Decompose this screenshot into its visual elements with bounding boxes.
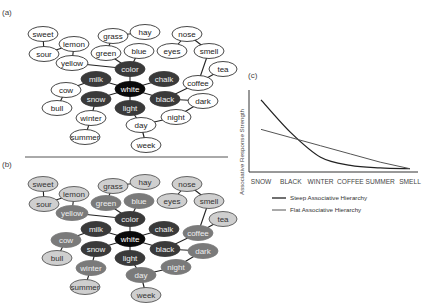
- node-label: nose: [178, 30, 196, 39]
- node-label: chalk: [155, 75, 175, 84]
- node-label: cow: [59, 236, 73, 245]
- node-cow: cow: [51, 233, 81, 248]
- node-winter: winter: [76, 111, 106, 126]
- line-chart: Associative Response Strength SNOWBLACKW…: [238, 90, 421, 213]
- node-milk: milk: [81, 222, 111, 237]
- node-hay: hay: [130, 25, 160, 40]
- node-label: sour: [36, 200, 52, 209]
- node-label: eyes: [164, 197, 181, 206]
- x-tick-smell: SMELL: [399, 178, 421, 185]
- node-label: yellow: [61, 59, 83, 68]
- node-yellow: yellow: [56, 56, 88, 71]
- node-label: sour: [36, 50, 52, 59]
- node-light: light: [115, 251, 145, 266]
- node-blue: blue: [124, 44, 154, 59]
- node-day: day: [126, 118, 156, 133]
- x-tick-coffee: COFFEE: [337, 178, 364, 185]
- node-label: bull: [51, 104, 64, 113]
- node-black: black: [150, 242, 180, 257]
- node-color: color: [115, 62, 145, 77]
- node-smell: smell: [194, 194, 224, 209]
- node-label: dark: [195, 247, 212, 256]
- x-axis-ticks: SNOWBLACKWINTERCOFFEESUMMERSMELL: [251, 178, 421, 185]
- node-label: summer: [71, 133, 100, 142]
- node-label: hay: [139, 28, 152, 37]
- network-b: sweetsourlemonyellowgrasshaygreenbluenos…: [28, 175, 237, 303]
- node-label: milk: [89, 75, 104, 84]
- node-week: week: [131, 288, 161, 303]
- node-label: tea: [217, 65, 229, 74]
- node-label: week: [136, 141, 157, 150]
- steep-hierarchy-line: [261, 100, 410, 169]
- node-label: winter: [79, 264, 102, 273]
- node-label: dark: [195, 97, 212, 106]
- node-label: green: [96, 49, 116, 58]
- node-sweet: sweet: [28, 177, 58, 192]
- node-label: grass: [103, 32, 123, 41]
- panel-a-label: (a): [2, 8, 12, 17]
- node-label: lemon: [63, 40, 85, 49]
- node-eyes: eyes: [157, 194, 187, 209]
- node-label: coffee: [187, 79, 209, 88]
- legend-flat-label: Flat Associative Hierarchy: [290, 206, 362, 213]
- node-label: blue: [131, 197, 147, 206]
- node-label: smell: [200, 197, 219, 206]
- node-snow: snow: [81, 92, 111, 107]
- node-label: black: [156, 245, 176, 254]
- node-summer: summer: [70, 130, 100, 145]
- node-label: nose: [178, 180, 196, 189]
- node-label: lemon: [63, 190, 85, 199]
- node-label: summer: [71, 283, 100, 292]
- node-sour: sour: [29, 197, 59, 212]
- node-label: grass: [103, 182, 123, 191]
- legend-steep-label: Steep Associative Hierarchy: [290, 194, 368, 201]
- node-yellow: yellow: [56, 206, 88, 221]
- x-tick-summer: SUMMER: [366, 178, 396, 185]
- node-dark: dark: [188, 94, 218, 109]
- node-nose: nose: [172, 177, 202, 192]
- node-label: snow: [87, 95, 106, 104]
- node-label: eyes: [164, 47, 181, 56]
- node-green: green: [91, 46, 121, 61]
- x-tick-snow: SNOW: [251, 178, 272, 185]
- node-winter: winter: [76, 261, 106, 276]
- x-tick-winter: WINTER: [308, 178, 334, 185]
- node-light: light: [115, 101, 145, 116]
- network-b-nodes: sweetsourlemonyellowgrasshaygreenbluenos…: [28, 175, 237, 303]
- node-label: blue: [131, 47, 147, 56]
- legend: Steep Associative Hierarchy Flat Associa…: [272, 194, 368, 213]
- node-label: day: [135, 121, 148, 130]
- node-white: white: [115, 82, 145, 97]
- node-nose: nose: [172, 27, 202, 42]
- node-label: coffee: [187, 229, 209, 238]
- network-a-nodes: sweetsourlemonyellowgrasshaygreenbluenos…: [28, 25, 237, 153]
- node-lemon: lemon: [59, 187, 89, 202]
- node-black: black: [150, 92, 180, 107]
- node-label: white: [120, 235, 140, 244]
- node-coffee: coffee: [183, 226, 213, 241]
- node-label: chalk: [155, 225, 175, 234]
- node-label: snow: [87, 245, 106, 254]
- node-label: night: [167, 113, 185, 122]
- node-tea: tea: [209, 212, 237, 227]
- node-label: tea: [217, 215, 229, 224]
- node-smell: smell: [194, 44, 224, 59]
- node-label: light: [123, 104, 138, 113]
- node-chalk: chalk: [149, 72, 179, 87]
- panel-b-label: (b): [2, 160, 12, 169]
- figure-canvas: (a) (b) (c) sweetsourlemonyellowgrasshay…: [0, 0, 437, 303]
- node-label: bull: [51, 254, 64, 263]
- node-label: sweet: [33, 180, 55, 189]
- node-night: night: [161, 110, 191, 125]
- node-grass: grass: [98, 179, 128, 194]
- node-label: week: [136, 291, 157, 300]
- node-grass: grass: [98, 29, 128, 44]
- node-chalk: chalk: [149, 222, 179, 237]
- node-milk: milk: [81, 72, 111, 87]
- node-label: cow: [59, 86, 73, 95]
- node-snow: snow: [81, 242, 111, 257]
- node-label: green: [96, 199, 116, 208]
- node-label: winter: [79, 114, 102, 123]
- node-dark: dark: [188, 244, 218, 259]
- node-white: white: [115, 232, 145, 247]
